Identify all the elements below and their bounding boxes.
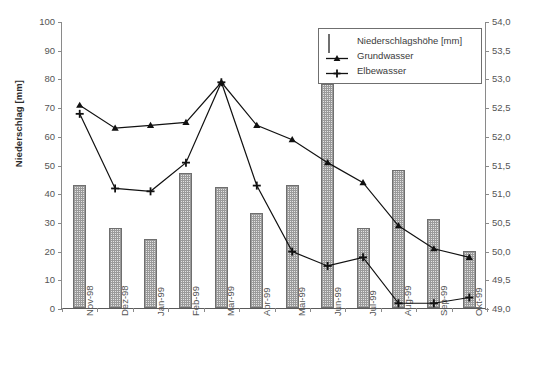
- y-axis-right-tick: [485, 252, 489, 253]
- y-axis-right-tick: [485, 51, 489, 52]
- y-axis-right-tick-label: 49,5: [492, 274, 511, 285]
- data-point-marker-triangle: [253, 122, 260, 128]
- bar: [179, 173, 192, 308]
- y-axis-right-tick-label: 54,0: [492, 16, 511, 27]
- legend-item-grundwasser: Grundwasser: [324, 48, 476, 63]
- x-axis-tick: [310, 308, 311, 312]
- data-point-marker-plus: [182, 159, 190, 167]
- data-point-marker-triangle: [289, 136, 296, 142]
- x-axis-tick: [275, 308, 276, 312]
- bar: [321, 84, 334, 308]
- y-axis-right-tick-label: 53,0: [492, 73, 511, 84]
- y-axis-right-tick: [485, 280, 489, 281]
- bar: [286, 185, 299, 308]
- y-axis-left-tick: [58, 79, 62, 80]
- y-axis-left-title: Niederschlag [mm]: [13, 64, 24, 184]
- legend-label: Niederschlagshöhe [mm]: [357, 35, 462, 46]
- legend-item-niederschlagshoehe: Niederschlagshöhe [mm]: [324, 33, 476, 48]
- data-point-marker-triangle: [112, 125, 119, 131]
- y-axis-left-tick: [58, 252, 62, 253]
- y-axis-left-tick-label: 70: [44, 102, 55, 113]
- chart-container: Niederschlag [mm] Wasserspiegel [müNN] 0…: [0, 0, 551, 371]
- y-axis-right-tick: [485, 79, 489, 80]
- x-axis-tick: [97, 308, 98, 312]
- x-axis-tick: [487, 308, 488, 312]
- y-axis-right-tick-label: 52,5: [492, 102, 511, 113]
- bar: [73, 185, 86, 308]
- y-axis-left-tick: [58, 108, 62, 109]
- y-axis-right-tick-label: 50,5: [492, 217, 511, 228]
- y-axis-right-tick-label: 50,0: [492, 246, 511, 257]
- y-axis-left-tick: [58, 166, 62, 167]
- bar: [144, 239, 157, 308]
- y-axis-left-tick-label: 100: [39, 16, 55, 27]
- data-point-marker-plus: [217, 78, 225, 86]
- bar-pattern-swatch-icon: [324, 35, 350, 46]
- data-point-marker-plus: [111, 184, 119, 192]
- y-axis-left-tick-label: 30: [44, 217, 55, 228]
- bar: [463, 251, 476, 308]
- y-axis-right-tick: [485, 223, 489, 224]
- chart-legend: Niederschlagshöhe [mm] Grundwasser Elbew…: [318, 28, 482, 84]
- x-axis-tick: [204, 308, 205, 312]
- y-axis-right-tick: [485, 108, 489, 109]
- y-axis-left-tick-label: 50: [44, 160, 55, 171]
- legend-item-elbewasser: Elbewasser: [324, 63, 476, 78]
- bar: [215, 187, 228, 308]
- bar: [250, 213, 263, 308]
- y-axis-left-tick-label: 90: [44, 45, 55, 56]
- y-axis-right-tick-label: 53,5: [492, 45, 511, 56]
- bar: [427, 219, 440, 308]
- y-axis-left-tick: [58, 194, 62, 195]
- chart-title: [0, 0, 551, 7]
- y-axis-right-tick: [485, 137, 489, 138]
- y-axis-left-tick: [58, 22, 62, 23]
- x-axis-tick: [452, 308, 453, 312]
- legend-label: Grundwasser: [357, 50, 414, 61]
- data-point-marker-plus: [76, 110, 84, 118]
- y-axis-left-tick-label: 80: [44, 73, 55, 84]
- x-axis-tick: [381, 308, 382, 312]
- bar: [109, 228, 122, 308]
- y-axis-right-tick-label: 52,0: [492, 131, 511, 142]
- y-axis-left-tick: [58, 223, 62, 224]
- y-axis-left-tick-label: 20: [44, 246, 55, 257]
- legend-label: Elbewasser: [357, 65, 406, 76]
- x-axis-tick: [133, 308, 134, 312]
- line-path: [80, 82, 470, 303]
- bar: [357, 228, 370, 308]
- line-path: [80, 82, 470, 257]
- y-axis-right-tick-label: 51,5: [492, 160, 511, 171]
- y-axis-right-tick-label: 49,0: [492, 303, 511, 314]
- y-axis-left-tick: [58, 280, 62, 281]
- data-point-marker-triangle: [218, 79, 225, 85]
- y-axis-left-tick-label: 40: [44, 188, 55, 199]
- y-axis-left-tick-label: 0: [50, 303, 55, 314]
- line-plus-marker-icon: [324, 65, 350, 76]
- x-axis-tick: [168, 308, 169, 312]
- y-axis-left-tick: [58, 51, 62, 52]
- y-axis-left-tick-label: 10: [44, 274, 55, 285]
- data-point-marker-triangle: [147, 122, 154, 128]
- data-point-marker-triangle: [76, 102, 83, 108]
- line-triangle-marker-icon: [324, 50, 350, 61]
- data-point-marker-plus: [147, 187, 155, 195]
- y-axis-left-tick: [58, 137, 62, 138]
- y-axis-left-tick-label: 60: [44, 131, 55, 142]
- data-point-marker-triangle: [359, 179, 366, 185]
- y-axis-right-tick: [485, 194, 489, 195]
- x-axis-tick: [345, 308, 346, 312]
- y-axis-right-tick-label: 51,0: [492, 188, 511, 199]
- data-point-marker-triangle: [182, 119, 189, 125]
- x-axis-tick: [62, 308, 63, 312]
- data-point-marker-plus: [253, 182, 261, 190]
- bar: [392, 170, 405, 308]
- x-axis-tick: [239, 308, 240, 312]
- x-axis-tick: [416, 308, 417, 312]
- y-axis-right-tick: [485, 166, 489, 167]
- y-axis-right-tick: [485, 22, 489, 23]
